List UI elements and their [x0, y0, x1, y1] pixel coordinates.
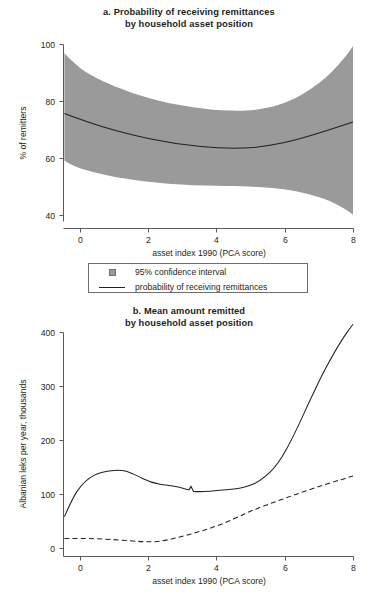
panel-b-y-axis-title: Albanian leks per year, thousands	[18, 380, 28, 509]
panel-b-ytick-label-400: 400	[41, 328, 56, 338]
panel-b-xtick-label-2: 2	[146, 563, 151, 573]
average-positive-amount-curve	[64, 324, 353, 517]
solid-line-swatch-icon	[89, 287, 135, 288]
panel-a-legend: 95% confidence interval probability of r…	[88, 263, 308, 293]
panel-a-y-axis-title: % of remitters	[18, 106, 28, 159]
panel-a-xtick-label-0: 0	[78, 235, 83, 245]
panel-a-xtick-label-4: 4	[214, 235, 219, 245]
legend-item-probability: probability of receiving remittances	[89, 280, 307, 294]
panel-b-xtick-label-0: 0	[78, 563, 83, 573]
panel-b-mean-amount: b. Mean amount remitted by household ass…	[0, 300, 378, 610]
average-amount-curve	[64, 476, 353, 542]
panel-a-xtick-label-2: 2	[146, 235, 151, 245]
panel-a-probability: a. Probability of receiving remittances …	[0, 0, 378, 300]
panel-a-ytick-label-100: 100	[41, 40, 56, 50]
panel-b-xtick-label-8: 8	[351, 563, 356, 573]
panel-b-ytick-label-0: 0	[50, 544, 55, 554]
panel-b-ytick-label-300: 300	[41, 382, 56, 392]
panel-a-ytick-label-60: 60	[45, 154, 55, 164]
panel-b-plot: 400 300 200 100 0 Albanian leks per year…	[0, 300, 378, 610]
panel-a-xtick-label-6: 6	[283, 235, 288, 245]
confidence-band-95	[64, 46, 353, 215]
panel-a-ytick-label-40: 40	[45, 211, 55, 221]
panel-b-ytick-label-100: 100	[41, 490, 56, 500]
legend-label-confidence-interval: 95% confidence interval	[135, 267, 226, 277]
gray-square-swatch-icon	[89, 269, 135, 276]
panel-b-xtick-label-6: 6	[283, 563, 288, 573]
panel-a-xtick-label-8: 8	[351, 235, 356, 245]
panel-b-xtick-label-4: 4	[214, 563, 219, 573]
panel-a-ytick-label-80: 80	[45, 97, 55, 107]
panel-a-x-axis-title: asset index 1990 (PCA score)	[152, 248, 266, 258]
legend-item-confidence-interval: 95% confidence interval	[89, 265, 307, 279]
panel-b-x-axis-title: asset index 1990 (PCA score)	[152, 576, 266, 586]
panel-b-ytick-label-200: 200	[41, 436, 56, 446]
panel-a-plot: 100 80 60 40 % of remitters 0 2 4 6 8 as…	[0, 0, 378, 300]
legend-label-probability: probability of receiving remittances	[135, 282, 267, 292]
